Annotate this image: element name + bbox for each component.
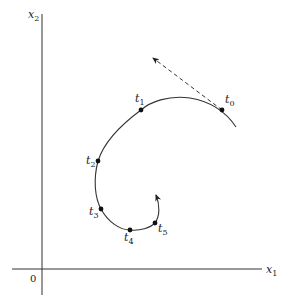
point-label-t3: t3 [89,205,99,220]
diagram-canvas: x2 x1 0 t0t1t2t3t4t5 [0,0,287,305]
tangent-arrow [153,58,222,110]
point-label-t5: t5 [158,222,168,237]
trajectory-curve [95,97,236,230]
point-label-t1: t1 [135,92,145,107]
trajectory-diagram: x2 x1 0 t0t1t2t3t4t5 [0,0,287,305]
origin-label: 0 [30,273,36,284]
point-t3 [99,207,104,212]
point-t2 [96,159,101,164]
point-t5 [153,221,158,226]
x2-axis-label: x2 [28,8,39,23]
point-t0 [220,108,225,113]
point-label-t0: t0 [225,93,235,108]
point-label-t4: t4 [124,231,134,246]
x1-axis-label: x1 [266,263,277,278]
point-label-t2: t2 [86,154,96,169]
point-t1 [139,108,144,113]
trajectory-points: t0t1t2t3t4t5 [86,92,235,246]
